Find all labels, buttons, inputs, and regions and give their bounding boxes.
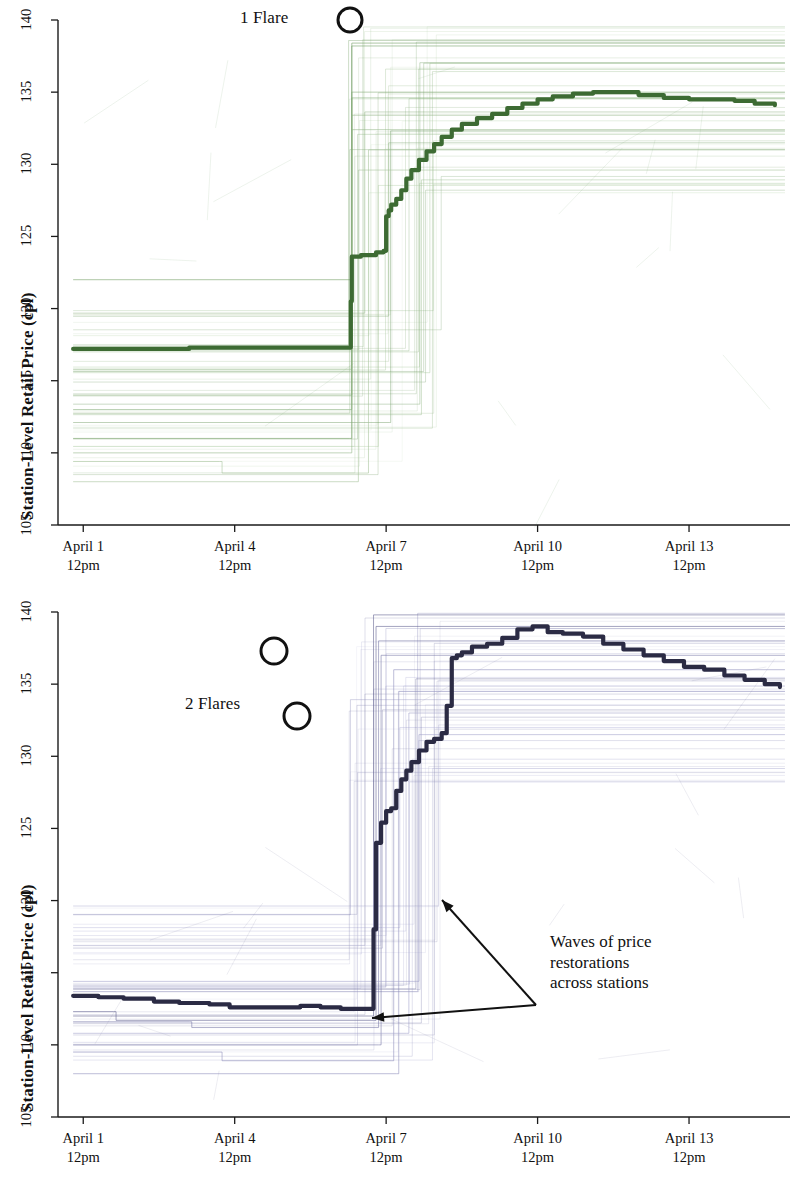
plot-area-top bbox=[0, 0, 794, 592]
station-price-traces bbox=[73, 43, 785, 482]
flare-circle-marker-2 bbox=[284, 703, 310, 729]
chart-panel-bottom: Station-Level Retail Price (cpl) 1051101… bbox=[0, 592, 794, 1184]
chart-panel-top: Station-Level Retail Price (cpl) 1051101… bbox=[0, 0, 794, 592]
background-station-traces bbox=[73, 613, 785, 1100]
background-station-traces bbox=[73, 27, 785, 528]
average-price-line bbox=[73, 626, 780, 1008]
flare-circle-marker-1 bbox=[338, 8, 362, 32]
waves-arrow-1 bbox=[442, 900, 536, 1005]
flare-circle-marker-1 bbox=[261, 638, 287, 664]
plot-area-bottom bbox=[0, 592, 794, 1184]
